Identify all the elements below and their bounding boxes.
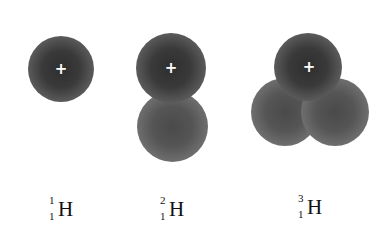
plus-icon: + xyxy=(55,62,68,77)
atomic-number: 1 xyxy=(298,208,304,220)
element-symbol: H xyxy=(169,197,184,222)
atomic-number: 1 xyxy=(49,210,55,222)
plus-icon: + xyxy=(165,61,178,76)
plus-icon: + xyxy=(303,60,316,75)
element-symbol: H xyxy=(307,195,322,220)
mass-number: 3 xyxy=(298,192,304,204)
mass-number: 2 xyxy=(160,194,166,206)
atomic-number: 1 xyxy=(160,210,166,222)
mass-number: 1 xyxy=(49,194,55,206)
element-symbol: H xyxy=(58,197,73,222)
